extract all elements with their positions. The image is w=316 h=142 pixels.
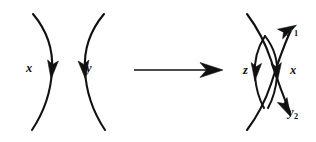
knot-transformation-figure: x y z x y1 y2 — [0, 0, 316, 142]
label-y1-right: y1 — [288, 23, 298, 36]
strand-long-arc-ascending — [247, 32, 290, 130]
label-y2-right: y2 — [288, 106, 298, 119]
label-y1-subscript: 1 — [294, 29, 298, 38]
label-y1-base: y — [288, 22, 294, 36]
label-y2-base: y — [288, 105, 294, 119]
label-y2-subscript: 2 — [294, 112, 298, 121]
strand-arc-x — [32, 14, 52, 130]
label-x-left: x — [26, 62, 32, 75]
label-x-right: x — [290, 64, 296, 77]
label-y-left: y — [86, 62, 92, 75]
left-diagram — [32, 14, 105, 130]
transformation-arrow — [134, 63, 223, 78]
figure-canvas — [0, 0, 316, 142]
label-z-right: z — [243, 64, 248, 77]
